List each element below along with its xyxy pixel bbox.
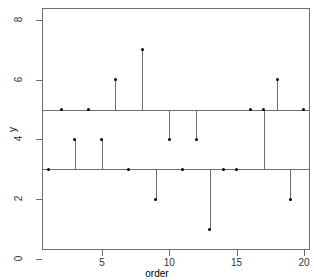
y-tick-label: 2 (13, 189, 24, 209)
stem-line (290, 169, 291, 199)
x-tick-label: 10 (157, 257, 181, 268)
y-tick-label-wrap: 0 (8, 253, 28, 265)
data-point[interactable] (235, 168, 238, 171)
reference-line-3 (42, 169, 310, 170)
data-point[interactable] (114, 78, 117, 81)
data-point[interactable] (127, 168, 130, 171)
data-point[interactable] (249, 108, 252, 111)
data-point[interactable] (262, 108, 265, 111)
x-tick (304, 250, 305, 256)
data-point[interactable] (195, 138, 198, 141)
stem-line (102, 139, 103, 169)
data-point[interactable] (87, 108, 90, 111)
stem-line (75, 139, 76, 169)
stem-line (277, 80, 278, 110)
data-point[interactable] (289, 198, 292, 201)
x-tick-label: 15 (225, 257, 249, 268)
y-tick-label-wrap: 2 (8, 193, 28, 205)
y-tick-label-wrap: 6 (8, 74, 28, 86)
data-point[interactable] (276, 78, 279, 81)
data-point[interactable] (47, 168, 50, 171)
data-point[interactable] (141, 48, 144, 51)
x-axis-title: order (0, 268, 314, 279)
y-axis-title: y (7, 110, 18, 150)
stem-line (264, 110, 265, 170)
x-tick-label: 20 (292, 257, 314, 268)
plot-area (42, 8, 310, 250)
stem-line (169, 110, 170, 140)
data-point[interactable] (302, 108, 305, 111)
data-point[interactable] (73, 138, 76, 141)
x-tick (102, 250, 103, 256)
y-tick (36, 259, 42, 260)
reference-line-5 (42, 110, 310, 111)
x-tick (237, 250, 238, 256)
y-tick-label: 6 (13, 69, 24, 89)
data-point[interactable] (60, 108, 63, 111)
data-point[interactable] (168, 138, 171, 141)
y-tick (36, 199, 42, 200)
y-tick (36, 139, 42, 140)
chart-container: 02468 5101520 y order (0, 0, 314, 280)
data-point[interactable] (100, 138, 103, 141)
stem-line (196, 110, 197, 140)
y-tick (36, 80, 42, 81)
stem-line (142, 50, 143, 110)
data-point[interactable] (154, 198, 157, 201)
data-point[interactable] (181, 168, 184, 171)
y-tick (36, 20, 42, 21)
y-tick-label: 8 (13, 9, 24, 29)
y-tick-label-wrap: 8 (8, 14, 28, 26)
stem-line (210, 169, 211, 229)
x-tick (169, 250, 170, 256)
data-point[interactable] (208, 228, 211, 231)
stem-line (156, 169, 157, 199)
x-tick-label: 5 (90, 257, 114, 268)
stem-line (115, 80, 116, 110)
data-point[interactable] (222, 168, 225, 171)
y-tick-label: 0 (13, 248, 24, 268)
